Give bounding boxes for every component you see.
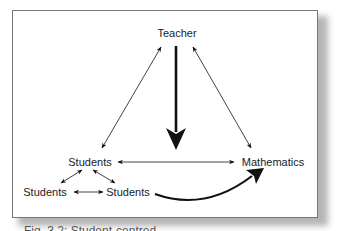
node-students-right: Students — [106, 186, 150, 198]
node-students-main: Students — [68, 156, 112, 168]
edge-students-main-right — [93, 170, 115, 183]
node-teacher: Teacher — [157, 27, 196, 39]
edge-teacher-mathematics — [193, 47, 251, 148]
node-students-left: Students — [23, 186, 67, 198]
figure-caption: Fig. 3.2: Student-centred... — [24, 224, 166, 231]
edge-students-right-mathematics-curved — [155, 168, 264, 200]
relationship-diagram: Teacher Students Mathematics Students St… — [0, 0, 338, 231]
node-mathematics: Mathematics — [242, 156, 305, 168]
edge-teacher-students — [102, 47, 161, 148]
edge-students-main-left — [61, 170, 82, 183]
edge-teacher-bold-arrow — [166, 46, 186, 150]
